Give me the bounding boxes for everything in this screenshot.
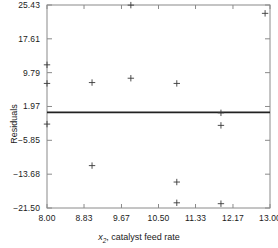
data-point-marker: [44, 121, 50, 127]
x-axis-label-text: , catalyst feed rate: [106, 232, 180, 242]
data-point-marker: [174, 200, 180, 206]
y-axis-label: Residuals: [9, 84, 19, 164]
plot-frame: [47, 5, 270, 208]
x-axis-tick-label: 9.67: [113, 213, 130, 223]
data-point-marker: [218, 110, 224, 116]
x-axis-tick-label: 11.33: [185, 213, 206, 223]
data-point-marker: [174, 80, 180, 86]
data-point-marker: [218, 122, 224, 128]
x-axis-tick-label: 8.83: [76, 213, 93, 223]
data-point-marker: [218, 200, 224, 206]
data-point-group: [44, 2, 268, 207]
data-point-marker: [128, 2, 134, 8]
y-axis-tick-label: −5.85: [0, 135, 40, 145]
y-axis-tick-label: 1.97: [0, 101, 40, 111]
data-point-marker: [44, 80, 50, 86]
x-axis-tick-label: 8.00: [39, 213, 56, 223]
x-axis-tick-label: 10.50: [148, 213, 170, 223]
y-axis-tick-label: 25.43: [0, 0, 40, 10]
x-axis-tick-label: 13.00: [259, 213, 278, 223]
y-axis-tick-label: −13.68: [0, 169, 40, 179]
data-point-marker: [89, 79, 95, 85]
data-point-marker: [44, 62, 50, 68]
data-point-marker: [128, 75, 134, 81]
data-point-marker: [174, 179, 180, 185]
y-axis-tick-label: 17.61: [0, 34, 40, 44]
y-axis-tick-label: −21.50: [0, 203, 40, 213]
y-axis-tick-label: 9.79: [0, 68, 40, 78]
x-axis-tick-label: 12.17: [222, 213, 244, 223]
plot-canvas: [0, 0, 278, 248]
data-point-marker: [262, 10, 268, 16]
data-point-marker: [89, 162, 95, 168]
residual-scatter-plot-figure: −21.50−13.68−5.851.979.7917.6125.438.008…: [0, 0, 278, 248]
x-axis-label: x2, catalyst feed rate: [0, 232, 278, 244]
